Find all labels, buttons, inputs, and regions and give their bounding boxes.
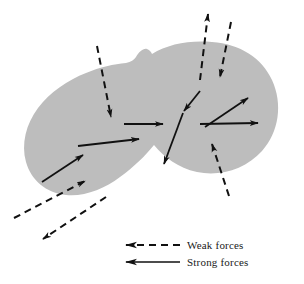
strong-force-arrow-right (200, 123, 258, 124)
force-field-diagram: Weak forces Strong forces (0, 0, 304, 284)
legend-strong-label: Strong forces (187, 256, 249, 268)
legend-weak-label: Weak forces (187, 239, 244, 251)
